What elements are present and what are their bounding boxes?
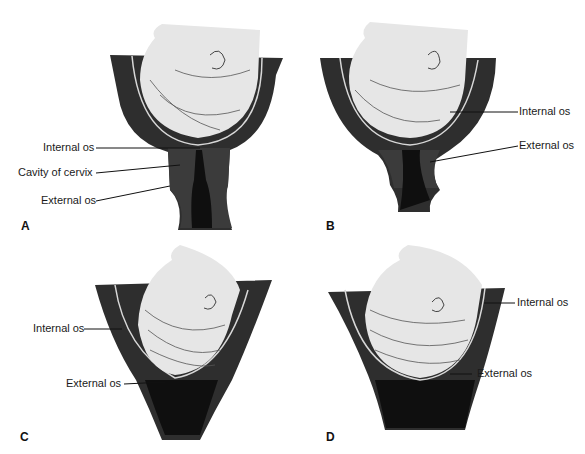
label-internal-os: Internal os — [33, 322, 84, 334]
panel-letter-d: D — [326, 430, 335, 444]
panel-d: Internal os External os D — [290, 230, 585, 454]
label-internal-os: Internal os — [43, 141, 94, 153]
label-internal-os: Internal os — [519, 105, 570, 117]
label-external-os: External os — [519, 139, 574, 151]
label-external-os: External os — [66, 377, 121, 389]
panel-b: Internal os External os B — [290, 0, 585, 230]
label-internal-os: Internal os — [517, 296, 568, 308]
panel-c: Internal os External os C — [0, 230, 290, 454]
panel-c-illustration — [0, 230, 290, 454]
label-cavity-of-cervix: Cavity of cervix — [18, 166, 93, 178]
label-external-os: External os — [41, 194, 96, 206]
panel-a: Internal os Cavity of cervix External os… — [0, 0, 290, 230]
label-external-os: External os — [477, 367, 532, 379]
panel-letter-c: C — [20, 430, 29, 444]
panel-d-illustration — [290, 230, 585, 454]
